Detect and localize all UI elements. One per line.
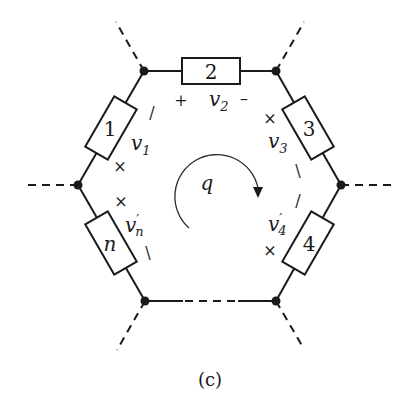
element-2-plus-sign: + xyxy=(174,91,187,110)
hexagon-loop-diagram: 2 1 3 n 4 + v2 – / v1 × × v3 \ × v′n \ /… xyxy=(0,0,417,409)
element-1-voltage: v1 xyxy=(131,131,151,158)
loop-label: q xyxy=(201,171,214,195)
element-3-minus-sign: \ xyxy=(295,161,301,180)
node-bottom-left xyxy=(141,297,150,306)
element-n-plus-sign: × xyxy=(114,192,127,211)
element-4-minus-sign: / xyxy=(295,191,301,210)
node-top-left xyxy=(140,67,149,76)
loop-arrowhead-icon xyxy=(253,187,263,198)
element-2-minus-sign: – xyxy=(240,89,248,108)
element-3-label: 3 xyxy=(303,117,316,141)
external-branch-bottom-left xyxy=(117,301,145,350)
element-4-voltage: v′4 xyxy=(268,211,287,238)
element-2: 2 xyxy=(182,58,240,84)
node-top-right xyxy=(272,67,281,76)
element-4-plus-sign: × xyxy=(263,241,276,260)
element-n-label: n xyxy=(104,232,117,256)
external-branch-top-right xyxy=(276,22,304,71)
element-3-voltage: v3 xyxy=(268,129,288,156)
element-1-minus-sign: / xyxy=(149,103,155,122)
loop-arrow xyxy=(175,155,258,228)
element-1-plus-sign: × xyxy=(113,157,126,176)
element-2-label: 2 xyxy=(205,60,218,84)
element-4-label: 4 xyxy=(303,232,316,256)
node-right xyxy=(337,181,346,190)
element-1-label: 1 xyxy=(104,117,117,141)
element-2-voltage: v2 xyxy=(209,87,229,114)
node-bottom-right xyxy=(272,297,281,306)
node-left xyxy=(74,181,83,190)
external-branch-top-left xyxy=(116,22,144,71)
element-n-minus-sign: \ xyxy=(145,243,151,262)
element-n-voltage: v′n xyxy=(125,212,144,239)
external-branch-bottom-right xyxy=(276,301,304,349)
figure-caption: (c) xyxy=(198,369,222,390)
element-3-plus-sign: × xyxy=(263,109,276,128)
